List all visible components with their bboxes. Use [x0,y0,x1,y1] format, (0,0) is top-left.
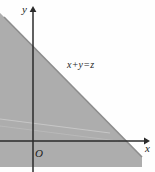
coordinate-plot [0,0,155,172]
y-axis-arrow-icon [30,6,37,12]
math-figure: y x O x+y=z [0,0,155,172]
line-equation-label: x+y=z [67,60,94,70]
y-axis-label: y [22,4,27,15]
x-axis-label: x [145,143,150,154]
shaded-region-tone [0,13,142,167]
origin-label: O [35,148,43,159]
